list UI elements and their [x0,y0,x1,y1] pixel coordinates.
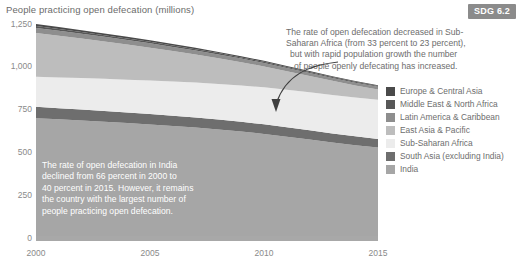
legend-item-europe-central-asia[interactable]: Europe & Central Asia [386,86,504,98]
y-axis-tick-250: 250 [0,191,32,200]
chart-legend: Europe & Central AsiaMiddle East & North… [386,86,504,177]
y-axis-tick-0: 0 [0,234,32,243]
legend-item-label: Middle East & North Africa [400,100,498,109]
x-axis-tick-2010: 2010 [255,248,274,258]
x-axis-baseline [36,236,378,241]
annotation-inner-line-4: the country with the largest number of [42,194,242,205]
legend-swatch-icon [386,100,395,109]
legend-swatch-icon [386,87,395,96]
page-title: People practicing open defecation (milli… [6,4,194,15]
status-badge: SDG 6.2 [468,4,516,19]
x-axis-tick-2015: 2015 [369,248,388,258]
y-axis-tick-1000: 1,000 [0,62,32,71]
legend-swatch-icon [386,126,395,135]
annotation-inner-line-2: declined from 66 percent in 2000 to [42,171,242,182]
annotation-inner-line-5: people practicing open defecation. [42,206,242,217]
chart-figure: People practicing open defecation (milli… [0,0,522,267]
legend-item-middle-east-north-africa[interactable]: Middle East & North Africa [386,99,504,111]
annotation-outer-line-2: Saharan Africa (from 33 percent to 23 pe… [286,38,518,49]
y-axis-tick-1250: 1,250 [0,20,32,29]
legend-item-label: India [400,165,418,174]
legend-item-label: Europe & Central Asia [400,87,482,96]
legend-item-south-asia-excluding-india[interactable]: South Asia (excluding India) [386,151,504,163]
y-axis-tick-750: 750 [0,105,32,114]
annotation-arrow-icon [250,58,342,120]
x-axis-tick-2005: 2005 [141,248,160,258]
legend-item-label: Latin America & Caribbean [400,113,500,122]
legend-item-label: South Asia (excluding India) [400,152,504,161]
legend-swatch-icon [386,165,395,174]
legend-item-east-asia-pacific[interactable]: East Asia & Pacific [386,125,504,137]
legend-swatch-icon [386,139,395,148]
legend-item-label: Sub-Saharan Africa [400,139,473,148]
legend-item-india[interactable]: India [386,164,504,176]
annotation-outer-line-1: The rate of open defecation decreased in… [286,27,518,38]
annotation-india: The rate of open defecation in India dec… [42,160,242,217]
legend-swatch-icon [386,113,395,122]
x-axis-tick-2000: 2000 [27,248,46,258]
legend-item-sub-saharan-africa[interactable]: Sub-Saharan Africa [386,138,504,150]
legend-item-latin-america-caribbean[interactable]: Latin America & Caribbean [386,112,504,124]
y-axis-tick-500: 500 [0,148,32,157]
legend-item-label: East Asia & Pacific [400,126,470,135]
annotation-inner-line-3: 40 percent in 2015. However, it remains [42,183,242,194]
legend-swatch-icon [386,152,395,161]
annotation-inner-line-1: The rate of open defecation in India [42,160,242,171]
